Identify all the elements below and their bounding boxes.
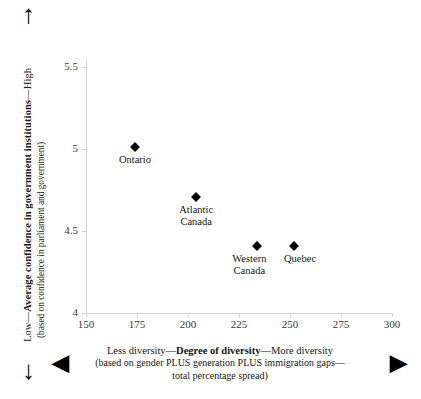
x-tick-label: 200 [168, 318, 208, 330]
x-tick-mark [290, 313, 291, 317]
x-tick-label: 275 [321, 318, 361, 330]
y-tick-mark [82, 67, 86, 68]
y-axis-tick-labels: 5.5 5 4.5 4 [52, 0, 78, 399]
x-axis-less-label: Less diversity— [107, 345, 176, 356]
axis-right-arrow-icon: ▶ [390, 352, 407, 374]
scatter-chart: ↑ ↓ ◀ ▶ Low—Average confidence in govern… [0, 0, 421, 399]
x-tick-label: 175 [117, 318, 157, 330]
y-axis-main-title: Average confidence in government institu… [22, 100, 33, 312]
x-tick-mark [86, 313, 87, 317]
x-axis-more-label: —More diversity [260, 345, 333, 356]
x-axis-caption: Less diversity—Degree of diversity—More … [70, 344, 370, 382]
x-tick-label: 300 [372, 318, 412, 330]
data-point-marker [191, 192, 201, 202]
data-point-label-line: Atlantic [179, 204, 213, 215]
y-tick-mark [82, 231, 86, 232]
data-point-label: Quebec [260, 253, 340, 265]
y-axis-title-group: Low—Average confidence in government ins… [0, 30, 46, 350]
x-tick-mark [137, 313, 138, 317]
axis-down-arrow-icon: ↓ [22, 358, 35, 384]
x-axis-subtitle-line1: (based on gender PLUS generation PLUS im… [95, 357, 345, 368]
y-axis-subtitle: (based on confidence in parliament and g… [36, 142, 46, 338]
data-point-label: AtlanticCanada [156, 204, 236, 228]
data-point-label-line: Ontario [119, 154, 151, 165]
y-axis-title: Low—Average confidence in government ins… [22, 68, 33, 342]
y-tick-label: 4.5 [54, 224, 78, 236]
data-point-label-line: Canada [234, 265, 266, 276]
y-tick-label: 4 [54, 306, 78, 318]
x-tick-mark [392, 313, 393, 317]
y-axis-dash-left: — [22, 312, 33, 323]
y-tick-mark [82, 149, 86, 150]
y-axis-high-label: High [22, 68, 33, 89]
data-point-marker [252, 241, 262, 251]
data-point-marker [130, 142, 140, 152]
y-axis-dash-right: — [22, 89, 33, 100]
x-tick-mark [239, 313, 240, 317]
x-tick-mark [341, 313, 342, 317]
x-tick-mark [188, 313, 189, 317]
y-axis-low-label: Low [22, 322, 33, 342]
axis-up-arrow-icon: ↑ [22, 2, 35, 28]
x-tick-label: 150 [66, 318, 106, 330]
data-point-label-line: Quebec [284, 253, 316, 264]
x-axis-title-line: Less diversity—Degree of diversity—More … [70, 344, 370, 357]
y-tick-label: 5 [54, 142, 78, 154]
y-axis-line [86, 60, 87, 314]
y-tick-label: 5.5 [54, 60, 78, 72]
data-point-marker [289, 241, 299, 251]
data-point-label-line: Canada [180, 216, 212, 227]
x-axis-main-title: Degree of diversity [176, 345, 260, 356]
x-axis-subtitle: (based on gender PLUS generation PLUS im… [70, 357, 370, 382]
data-point-label: Ontario [95, 154, 175, 166]
x-tick-label: 250 [270, 318, 310, 330]
x-axis-subtitle-line2: total percentage spread) [172, 370, 268, 381]
x-tick-label: 225 [219, 318, 259, 330]
